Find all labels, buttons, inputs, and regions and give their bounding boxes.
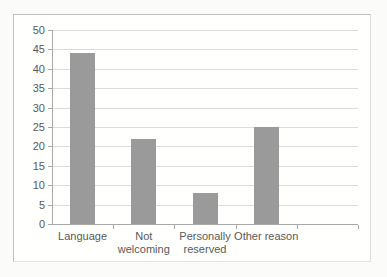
y-tick-45 — [48, 49, 52, 50]
gridline-15 — [52, 166, 358, 167]
y-tick-15 — [48, 166, 52, 167]
y-axis-label-0: 0 — [16, 217, 45, 231]
x-tick-4 — [297, 225, 298, 229]
x-tick-3 — [236, 225, 237, 229]
bar-not-welcoming — [131, 139, 156, 224]
y-axis-label-40: 40 — [16, 62, 45, 76]
gridline-50 — [52, 30, 358, 31]
bar-chart-frame: 05101520253035404550LanguageNot welcomin… — [13, 14, 371, 262]
bar-personally-reserved — [193, 193, 218, 224]
gridline-40 — [52, 69, 358, 70]
x-axis-label-not-welcoming: Not welcoming — [111, 230, 177, 256]
y-tick-25 — [48, 127, 52, 128]
gridline-10 — [52, 185, 358, 186]
x-axis-line — [52, 224, 358, 225]
y-tick-35 — [48, 88, 52, 89]
gridline-30 — [52, 108, 358, 109]
gridline-45 — [52, 49, 358, 50]
gridline-20 — [52, 146, 358, 147]
y-axis-label-50: 50 — [16, 23, 45, 37]
y-tick-40 — [48, 69, 52, 70]
y-tick-10 — [48, 185, 52, 186]
y-axis-label-35: 35 — [16, 81, 45, 95]
bar-language — [70, 53, 95, 224]
x-axis-label-other-reason: Other reason — [233, 230, 299, 243]
x-axis-label-personally-reserved: Personally reserved — [172, 230, 238, 256]
y-tick-50 — [48, 30, 52, 31]
y-axis-label-10: 10 — [16, 178, 45, 192]
y-tick-5 — [48, 205, 52, 206]
y-axis-label-25: 25 — [16, 120, 45, 134]
y-axis-label-45: 45 — [16, 42, 45, 56]
y-axis-line — [52, 30, 53, 225]
x-tick-2 — [174, 225, 175, 229]
y-axis-label-15: 15 — [16, 159, 45, 173]
y-axis-label-20: 20 — [16, 139, 45, 153]
gridline-35 — [52, 88, 358, 89]
y-tick-30 — [48, 108, 52, 109]
x-axis-label-language: Language — [50, 230, 116, 243]
scanned-page: 05101520253035404550LanguageNot welcomin… — [0, 0, 387, 277]
y-tick-0 — [48, 224, 52, 225]
gridline-25 — [52, 127, 358, 128]
x-tick-1 — [113, 225, 114, 229]
x-tick-5 — [358, 225, 359, 229]
y-axis-label-30: 30 — [16, 101, 45, 115]
y-tick-20 — [48, 146, 52, 147]
y-axis-label-5: 5 — [16, 198, 45, 212]
bar-other-reason — [254, 127, 279, 224]
